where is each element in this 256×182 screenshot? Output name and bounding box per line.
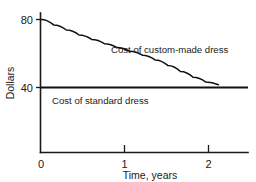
chart-background <box>0 0 256 182</box>
y-tick-label-80: 80 <box>21 14 33 26</box>
chart-figure: 80 40 0 1 2 Dollars Time, years Cost of … <box>0 0 256 182</box>
annotation-standard-dress: Cost of standard dress <box>52 95 149 106</box>
annotation-custom-made-dress: Cost of custom-made dress <box>111 44 229 55</box>
x-tick-label-2: 2 <box>205 158 211 170</box>
y-axis-title: Dollars <box>4 67 16 100</box>
x-axis-title: Time, years <box>123 169 177 181</box>
x-tick-label-0: 0 <box>38 158 44 170</box>
y-tick-label-40: 40 <box>21 82 33 94</box>
chart-canvas: 80 40 0 1 2 Dollars Time, years Cost of … <box>0 0 256 182</box>
